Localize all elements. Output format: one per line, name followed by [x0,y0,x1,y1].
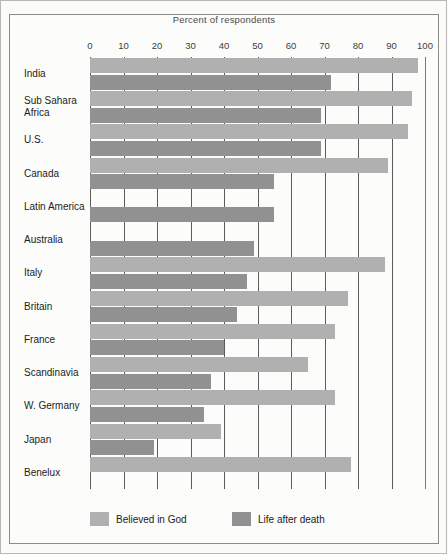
bar-life-after-death [90,141,321,156]
gridline-90 [392,57,393,489]
legend-swatch-icon [90,512,109,526]
bar-believed-in-god [90,124,408,139]
x-tick-40: 40 [219,40,230,51]
category-label: W. Germany [24,400,80,412]
bar-life-after-death [90,374,211,389]
bar-life-after-death [90,307,237,322]
bar-life-after-death [90,174,274,189]
category-label: Benelux [24,467,60,479]
chart-page: Percent of respondents 01020304050607080… [0,0,448,555]
legend-item-1[interactable]: Believed in God [90,512,187,526]
category-label: Japan [24,434,51,446]
x-tick-50: 50 [252,40,263,51]
bar-life-after-death [90,340,224,355]
category-label: India [24,68,46,80]
x-tick-0: 0 [87,40,92,51]
category-label: Sub Sahara Africa [24,95,77,118]
plot-area [90,57,425,489]
bar-believed-in-god [90,457,351,472]
legend-swatch-icon [232,512,251,526]
bar-life-after-death [90,241,254,256]
bar-believed-in-god [90,158,388,173]
legend-label: Believed in God [116,514,187,525]
bar-believed-in-god [90,291,348,306]
category-label: Canada [24,168,59,180]
category-label: France [24,334,55,346]
category-label: Scandinavia [24,367,78,379]
bar-believed-in-god [90,424,221,439]
category-label: U.S. [24,134,43,146]
bar-believed-in-god [90,257,385,272]
bar-life-after-death [90,274,247,289]
category-label: Italy [24,267,42,279]
x-tick-70: 70 [319,40,330,51]
bar-life-after-death [90,407,204,422]
bar-believed-in-god [90,91,412,106]
bar-believed-in-god [90,324,335,339]
x-tick-20: 20 [152,40,163,51]
x-tick-80: 80 [353,40,364,51]
bar-believed-in-god [90,390,335,405]
bar-believed-in-god [90,357,308,372]
legend-item-2[interactable]: Life after death [232,512,325,526]
bar-believed-in-god [90,58,418,73]
category-label: Australia [24,234,63,246]
category-label: Britain [24,301,52,313]
x-tick-90: 90 [386,40,397,51]
bar-life-after-death [90,108,321,123]
x-tick-10: 10 [118,40,129,51]
x-tick-30: 30 [185,40,196,51]
gridline-70 [325,57,326,489]
x-tick-100: 100 [417,40,433,51]
bar-life-after-death [90,75,331,90]
category-label: Latin America [24,201,85,213]
legend-label: Life after death [258,514,325,525]
gridline-100 [425,57,426,489]
chart-title: Percent of respondents [0,14,448,25]
x-axis-tick-labels: 0102030405060708090100 [90,40,425,54]
gridline-80 [358,57,359,489]
bar-life-after-death [90,440,154,455]
bar-life-after-death [90,207,274,222]
x-tick-60: 60 [286,40,297,51]
